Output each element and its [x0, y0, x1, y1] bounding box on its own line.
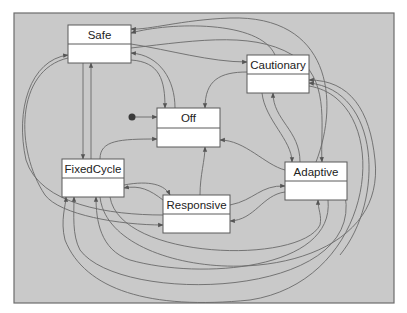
state-label: Off	[181, 112, 197, 124]
initial-state-dot	[129, 114, 136, 121]
state-label: Cautionary	[250, 59, 306, 71]
state-off[interactable]: Off	[157, 108, 220, 147]
state-label: Safe	[88, 29, 112, 41]
state-label: Adaptive	[294, 166, 339, 178]
state-fixedcycle[interactable]: FixedCycle	[62, 159, 124, 197]
state-diagram: SafeCautionaryOffFixedCycleResponsiveAda…	[0, 0, 407, 313]
state-adaptive[interactable]: Adaptive	[285, 162, 347, 200]
state-label: FixedCycle	[65, 163, 122, 175]
state-label: Responsive	[166, 199, 226, 211]
state-cautionary[interactable]: Cautionary	[247, 55, 309, 93]
state-responsive[interactable]: Responsive	[163, 195, 230, 233]
state-safe[interactable]: Safe	[68, 25, 131, 63]
